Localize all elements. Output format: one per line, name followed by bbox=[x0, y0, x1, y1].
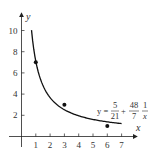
ticks: 1234567246810 bbox=[9, 26, 125, 150]
y-tick-label: 10 bbox=[9, 26, 19, 36]
eq-lhs: y = bbox=[97, 106, 108, 116]
eq-frac3-den: x bbox=[142, 111, 147, 121]
axes bbox=[9, 13, 137, 147]
chart: 1234567246810 x y y = 5 21 + 48 7 1 x bbox=[0, 0, 156, 162]
y-tick-label: 2 bbox=[13, 110, 18, 120]
points-layer bbox=[34, 60, 110, 128]
eq-frac2-den: 7 bbox=[132, 111, 136, 121]
x-tick-label: 2 bbox=[48, 140, 53, 150]
eq-frac1-den: 21 bbox=[111, 111, 120, 121]
x-tick-label: 4 bbox=[76, 140, 81, 150]
x-tick-label: 3 bbox=[62, 140, 67, 150]
eq-plus: + bbox=[121, 106, 126, 116]
x-tick-label: 7 bbox=[119, 140, 124, 150]
x-tick-label: 1 bbox=[34, 140, 39, 150]
eq-frac3-num: 1 bbox=[143, 100, 147, 110]
y-tick-label: 8 bbox=[13, 47, 18, 57]
y-axis-label: y bbox=[25, 11, 31, 22]
data-point bbox=[105, 124, 109, 128]
data-point bbox=[62, 103, 66, 107]
equation-annotation: y = 5 21 + 48 7 1 x bbox=[97, 100, 148, 121]
data-point bbox=[34, 60, 38, 64]
x-axis-label: x bbox=[135, 122, 141, 133]
y-tick-label: 6 bbox=[13, 68, 18, 78]
y-tick-label: 4 bbox=[13, 89, 18, 99]
x-tick-label: 6 bbox=[105, 140, 110, 150]
eq-frac2-num: 48 bbox=[130, 100, 139, 110]
x-tick-label: 5 bbox=[91, 140, 96, 150]
eq-frac1-num: 5 bbox=[113, 100, 117, 110]
